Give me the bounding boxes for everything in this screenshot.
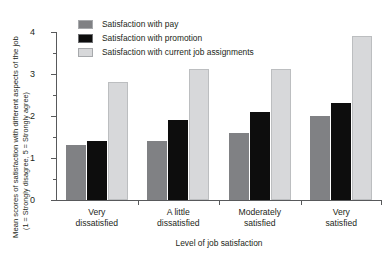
bar (310, 116, 330, 200)
x-category-label: Verysatisfied (301, 207, 383, 229)
legend-item: Satisfaction with current job assignment… (78, 45, 254, 59)
bar (66, 145, 86, 200)
legend-item: Satisfaction with pay (78, 17, 254, 31)
x-category-label-line: A little (138, 207, 220, 218)
bar (168, 120, 188, 200)
x-axis-title: Level of job satisfaction (56, 238, 382, 248)
y-tick-label: 3 (30, 69, 43, 79)
legend-swatch (78, 48, 93, 57)
bar (271, 69, 291, 200)
x-tick (219, 200, 220, 205)
x-tick (138, 200, 139, 205)
y-tick-label: 0 (30, 195, 43, 205)
bar (250, 112, 270, 200)
bar (108, 82, 128, 200)
y-tick-major (51, 116, 56, 117)
x-category-label-line: dissatisfied (56, 218, 138, 229)
y-tick-label: 4 (30, 27, 43, 37)
y-tick-major (51, 32, 56, 33)
x-category-label-line: Very (301, 207, 383, 218)
x-category-label: Verydissatisfied (56, 207, 138, 229)
y-tick-minor (53, 179, 56, 180)
x-category-label-line: satisfied (301, 218, 383, 229)
bar (189, 69, 209, 200)
bar (352, 36, 372, 200)
bar (87, 141, 107, 200)
y-tick-major (51, 200, 56, 201)
y-axis-title-main: Mean scores of satisfaction with differe… (11, 36, 22, 238)
legend-label: Satisfaction with current job assignment… (102, 47, 254, 57)
bar (147, 141, 167, 200)
legend-label: Satisfaction with promotion (102, 33, 202, 43)
y-axis-title: Mean scores of satisfaction with differe… (0, 0, 30, 240)
x-category-label-line: Very (56, 207, 138, 218)
y-tick-minor (53, 137, 56, 138)
x-category-label-line: dissatisfied (138, 218, 220, 229)
x-category-label: Moderatelysatisfied (219, 207, 301, 229)
x-category-label-line: Moderately (219, 207, 301, 218)
y-tick-label: 2 (30, 111, 43, 121)
x-category-label: A littledissatisfied (138, 207, 220, 229)
y-tick-minor (53, 95, 56, 96)
y-tick-major (51, 158, 56, 159)
legend-item: Satisfaction with promotion (78, 31, 254, 45)
legend-swatch (78, 20, 93, 29)
x-category-label-line: satisfied (219, 218, 301, 229)
bar-chart-figure: Mean scores of satisfaction with differe… (0, 0, 392, 268)
y-tick-minor (53, 53, 56, 54)
y-tick-label: 1 (30, 153, 43, 163)
bar-group (310, 32, 372, 200)
x-tick (381, 200, 382, 205)
y-tick-major (51, 74, 56, 75)
y-axis-line (56, 32, 57, 200)
legend-swatch (78, 34, 93, 43)
legend-label: Satisfaction with pay (102, 19, 178, 29)
legend: Satisfaction with paySatisfaction with p… (78, 17, 254, 59)
x-tick (301, 200, 302, 205)
bar (229, 133, 249, 200)
bar (331, 103, 351, 200)
